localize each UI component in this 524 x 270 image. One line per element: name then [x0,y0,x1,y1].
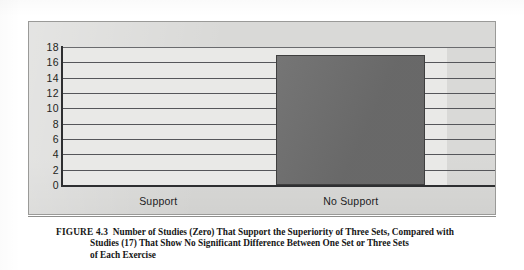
chart-panel: 024681012141618 SupportNo Support [28,21,496,215]
y-tick-label-2: 2 [37,165,59,175]
y-tick-label-6: 6 [37,134,59,144]
y-tick-label-16: 16 [37,57,59,67]
y-axis-line [61,46,63,187]
caption-text-line-1: Number of Studies (Zero) That Support th… [113,227,454,237]
y-axis-tick-labels: 024681012141618 [33,47,59,185]
figure-number: FIGURE 4.3 [56,227,108,237]
y-tick-label-12: 12 [37,88,59,98]
x-label-no-support: No Support [255,195,448,207]
caption-line-2: Studies (17) That Show No Significant Di… [56,238,506,249]
y-tick-label-8: 8 [37,119,59,129]
y-tick-label-18: 18 [37,42,59,52]
caption-line-1: FIGURE 4.3 Number of Studies (Zero) That… [56,227,506,238]
y-tick-label-4: 4 [37,149,59,159]
bar-no-support [276,55,425,185]
y-tick-label-14: 14 [37,73,59,83]
caption-line-3: of Each Exercise [56,250,506,261]
panel-bottom-divider [28,216,496,217]
y-tick-label-10: 10 [37,103,59,113]
x-label-support: Support [62,195,255,207]
figure-caption: FIGURE 4.3 Number of Studies (Zero) That… [56,227,506,261]
gridline-0 [62,185,495,187]
figure-container: 024681012141618 SupportNo Support FIGURE… [0,0,524,270]
y-tick-label-0: 0 [37,180,59,190]
